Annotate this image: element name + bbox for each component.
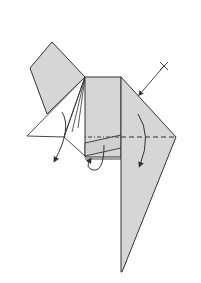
origami-diagram: [0, 0, 201, 283]
upper-left-flap: [30, 42, 85, 114]
right-long-flap: [121, 77, 176, 272]
center-rectangle: [85, 77, 121, 159]
pinch-mark-arrow: [140, 62, 168, 94]
